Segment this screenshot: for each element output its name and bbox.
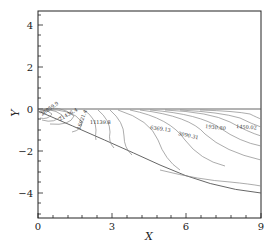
x-tick-label: 9	[258, 221, 264, 232]
x-tick-label: 0	[35, 221, 41, 232]
contour-lines	[38, 108, 261, 186]
y-tick-label: 2	[27, 62, 33, 73]
contour-labels: 26859.9 21436.4 16021.4 11139.8 6369.13 …	[39, 100, 257, 140]
x-tick-label: 3	[109, 221, 115, 232]
x-tick-label: 6	[183, 221, 189, 232]
contour-label: 1930.80	[205, 123, 226, 131]
y-tick-label: −4	[18, 188, 33, 199]
y-tick-label: 0	[27, 104, 33, 115]
contour-label: 3090.31	[178, 130, 199, 140]
contour-plot: 4 2 0 −2 −4 0 3 6 9 X Y 26859.9 21436.4	[0, 0, 272, 243]
x-axis-title: X	[144, 230, 154, 243]
contour-label: 1450.02	[236, 123, 257, 130]
y-tick-label: 4	[27, 20, 33, 31]
x-axis	[38, 213, 261, 218]
y-axis-title: Y	[9, 108, 22, 117]
contour-label: 11139.8	[90, 119, 111, 125]
y-tick-label: −2	[18, 146, 33, 157]
domain-boundary	[38, 109, 261, 193]
